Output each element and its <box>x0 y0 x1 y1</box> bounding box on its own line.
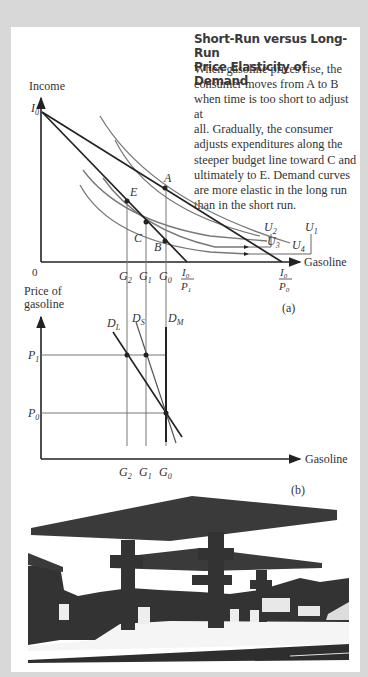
label-B: B <box>154 240 162 254</box>
point-A <box>163 186 168 191</box>
point-DM-P0 <box>164 411 169 416</box>
label-U2: U2 <box>264 220 277 236</box>
point-DL-P1 <box>125 353 130 358</box>
label-E: E <box>129 185 138 199</box>
tick-G0-a: G0 <box>159 269 172 285</box>
svg-text:P0: P0 <box>278 280 290 294</box>
svg-text:P1: P1 <box>180 280 191 294</box>
charts-svg: Income Gasoline 0 I0 A E C B U4 U3 <box>0 0 368 677</box>
tick-G2-b: G2 <box>119 465 132 481</box>
tick-G1-b: G1 <box>139 465 152 481</box>
tick-I0-over-P1: I0 P1 <box>180 266 194 294</box>
label-U4: U4 <box>292 238 305 254</box>
chart-b: Price of gasoline Gasoline P1 P0 DL DS D… <box>24 284 348 497</box>
label-A: A <box>163 171 172 185</box>
label-DL: DL <box>106 316 121 332</box>
chart-a: Income Gasoline 0 I0 A E C B U4 U3 <box>29 79 347 446</box>
point-DS-P1 <box>144 353 149 358</box>
label-U3: U3 <box>267 234 280 250</box>
curve-DS <box>136 322 176 443</box>
curve-DL <box>113 332 182 437</box>
tick-P1: P1 <box>27 348 39 364</box>
tick-G0-b: G0 <box>159 465 172 481</box>
label-DM: DM <box>167 311 185 327</box>
tick-I0-over-P0: I0 P0 <box>278 266 292 294</box>
panel-label-a: (a) <box>282 301 295 315</box>
y-axis-label-price-line2: gasoline <box>24 297 64 311</box>
svg-text:I0: I0 <box>181 266 190 280</box>
label-C: C <box>134 231 143 245</box>
curve-U4 <box>100 116 290 243</box>
budget-line-I0-P0 <box>42 112 282 262</box>
tick-G1-a: G1 <box>139 269 152 285</box>
point-B <box>163 239 168 244</box>
x-axis-label-gasoline: Gasoline <box>304 255 347 269</box>
I0-label: I0 <box>30 101 39 117</box>
gas-station-photo <box>28 496 349 663</box>
origin-label: 0 <box>32 266 38 278</box>
label-DS: DS <box>131 311 145 327</box>
tick-G2-a: G2 <box>119 269 132 285</box>
curve-U2 <box>103 178 248 247</box>
label-U1: U1 <box>305 220 318 236</box>
y-axis-label-price-line1: Price of <box>24 284 62 298</box>
svg-text:I0: I0 <box>279 266 288 280</box>
panel-label-b: (b) <box>291 483 305 497</box>
tick-P0: P0 <box>27 406 39 422</box>
point-C <box>144 220 149 225</box>
y-axis-label-income: Income <box>29 79 65 93</box>
x-axis-label-gasoline-b: Gasoline <box>305 452 348 466</box>
point-E <box>125 199 130 204</box>
